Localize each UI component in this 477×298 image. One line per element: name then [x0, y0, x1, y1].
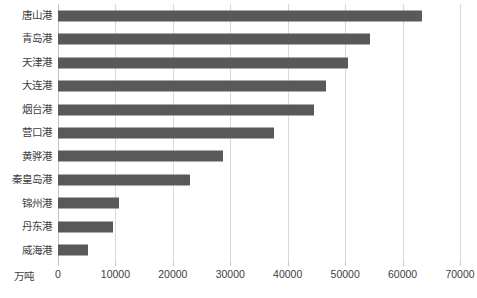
- category-label: 营口港: [0, 121, 52, 144]
- category-label: 黄骅港: [0, 145, 52, 168]
- bar-row: [58, 4, 460, 27]
- category-axis-labels: 唐山港青岛港天津港大连港烟台港营口港黄骅港秦皇岛港锦州港丹东港威海港: [0, 4, 52, 262]
- x-axis: 010000200003000040000500006000070000: [58, 262, 460, 282]
- bars-layer: [58, 4, 460, 262]
- bar[interactable]: [58, 221, 113, 232]
- bar-row: [58, 192, 460, 215]
- x-tick-mark: [288, 262, 289, 266]
- bar-row: [58, 51, 460, 74]
- bar[interactable]: [58, 34, 370, 45]
- x-tick-mark: [345, 262, 346, 266]
- bar-row: [58, 145, 460, 168]
- x-tick-mark: [115, 262, 116, 266]
- bar-row: [58, 121, 460, 144]
- x-tick-label: 0: [55, 268, 61, 280]
- bar[interactable]: [58, 245, 88, 256]
- bar-row: [58, 27, 460, 50]
- x-tick-mark: [403, 262, 404, 266]
- bar-row: [58, 215, 460, 238]
- bar-row: [58, 239, 460, 262]
- bar-row: [58, 98, 460, 121]
- x-tick-mark: [460, 262, 461, 266]
- x-tick-mark: [173, 262, 174, 266]
- category-label: 唐山港: [0, 4, 52, 27]
- plot-area: [58, 4, 460, 262]
- x-tick-label: 30000: [216, 268, 245, 280]
- bar[interactable]: [58, 57, 348, 68]
- category-label: 青岛港: [0, 27, 52, 50]
- bar[interactable]: [58, 10, 422, 21]
- x-tick-label: 50000: [331, 268, 360, 280]
- bar-row: [58, 168, 460, 191]
- x-tick-label: 20000: [158, 268, 187, 280]
- bar[interactable]: [58, 174, 190, 185]
- bar[interactable]: [58, 198, 119, 209]
- bar[interactable]: [58, 104, 314, 115]
- bar-chart: 唐山港青岛港天津港大连港烟台港营口港黄骅港秦皇岛港锦州港丹东港威海港 01000…: [0, 0, 477, 298]
- category-label: 锦州港: [0, 192, 52, 215]
- category-label: 丹东港: [0, 215, 52, 238]
- x-tick-label: 60000: [388, 268, 417, 280]
- x-tick-label: 70000: [445, 268, 474, 280]
- category-label: 威海港: [0, 239, 52, 262]
- category-label: 大连港: [0, 74, 52, 97]
- category-label: 烟台港: [0, 98, 52, 121]
- category-label: 天津港: [0, 51, 52, 74]
- bar[interactable]: [58, 127, 274, 138]
- bar[interactable]: [58, 151, 223, 162]
- unit-label: 万吨: [14, 268, 34, 283]
- x-tick-label: 40000: [273, 268, 302, 280]
- x-tick-mark: [230, 262, 231, 266]
- bar[interactable]: [58, 81, 326, 92]
- category-label: 秦皇岛港: [0, 168, 52, 191]
- x-tick-mark: [58, 262, 59, 266]
- gridline-70000: [460, 4, 461, 262]
- x-tick-label: 10000: [101, 268, 130, 280]
- bar-row: [58, 74, 460, 97]
